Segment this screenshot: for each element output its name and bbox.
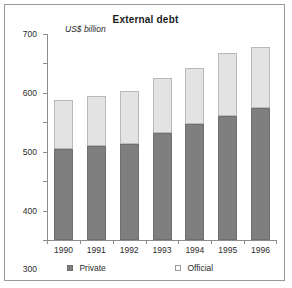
x-axis-tick bbox=[80, 240, 81, 244]
x-axis-tick bbox=[178, 240, 179, 244]
legend-item-official[interactable]: Official bbox=[175, 263, 213, 273]
y-axis-unit-label: US$ billion bbox=[65, 24, 106, 34]
x-axis-tick bbox=[113, 240, 114, 244]
legend-label-private: Private bbox=[79, 263, 105, 273]
bar-column[interactable] bbox=[120, 91, 139, 240]
legend-item-private[interactable]: Private bbox=[67, 263, 106, 273]
y-axis-tick: 200 bbox=[43, 181, 47, 182]
bar-column[interactable] bbox=[218, 53, 237, 240]
bar-segment-private[interactable] bbox=[153, 133, 172, 240]
bar-segment-official[interactable] bbox=[153, 78, 172, 132]
bar-segment-official[interactable] bbox=[251, 47, 270, 107]
y-axis-tick: 600 bbox=[43, 63, 47, 64]
bar-segment-private[interactable] bbox=[120, 144, 139, 240]
plot-area: 0100200300400500600700 19901991199219931… bbox=[47, 34, 277, 240]
x-axis-tick bbox=[244, 240, 245, 244]
chart-frame: External debt US$ billion 01002003004005… bbox=[4, 4, 285, 281]
bar-segment-official[interactable] bbox=[218, 53, 237, 116]
y-axis-tick-label: 500 bbox=[23, 147, 37, 157]
bar-column[interactable] bbox=[54, 100, 73, 240]
y-axis-line bbox=[47, 34, 48, 240]
x-axis-label: 1996 bbox=[241, 245, 281, 255]
bar-column[interactable] bbox=[87, 96, 106, 240]
bar-segment-official[interactable] bbox=[120, 91, 139, 144]
legend-swatch-private-icon bbox=[67, 265, 73, 271]
y-axis-tick-label: 400 bbox=[23, 206, 37, 216]
y-axis-tick: 500 bbox=[43, 93, 47, 94]
bar-segment-official[interactable] bbox=[185, 68, 204, 123]
y-axis-tick-label: 600 bbox=[23, 88, 37, 98]
bar-column[interactable] bbox=[153, 78, 172, 240]
legend-swatch-official-icon bbox=[175, 265, 181, 271]
bar-segment-official[interactable] bbox=[87, 96, 106, 147]
x-axis-line bbox=[47, 240, 277, 241]
bar-segment-official[interactable] bbox=[54, 100, 73, 149]
chart-title: External debt bbox=[5, 14, 286, 25]
bar-segment-private[interactable] bbox=[251, 108, 270, 240]
legend-label-official: Official bbox=[187, 263, 213, 273]
y-axis-tick: 100 bbox=[43, 211, 47, 212]
y-axis-tick: 700 bbox=[43, 34, 47, 35]
bar-column[interactable] bbox=[251, 47, 270, 240]
y-axis-tick-label: 700 bbox=[23, 29, 37, 39]
x-axis-tick bbox=[146, 240, 147, 244]
chart-legend: Private Official bbox=[5, 263, 286, 277]
x-axis-tick bbox=[47, 240, 48, 244]
x-axis-tick bbox=[211, 240, 212, 244]
y-axis-tick: 400 bbox=[43, 122, 47, 123]
bar-segment-private[interactable] bbox=[54, 149, 73, 240]
bar-segment-private[interactable] bbox=[218, 116, 237, 240]
bar-column[interactable] bbox=[185, 68, 204, 240]
bar-segment-private[interactable] bbox=[87, 146, 106, 240]
y-axis-tick: 300 bbox=[43, 152, 47, 153]
x-axis-tick bbox=[276, 240, 277, 244]
bar-segment-private[interactable] bbox=[185, 124, 204, 240]
